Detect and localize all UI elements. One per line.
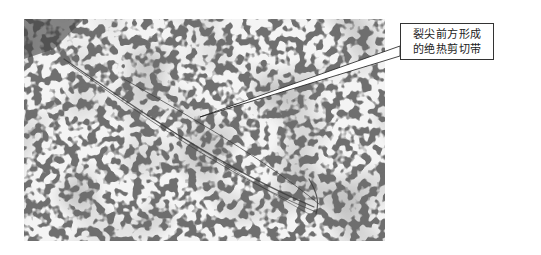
annotation-line-2: 的绝热剪切带	[413, 42, 482, 57]
figure: 裂尖前方形成 的绝热剪切带	[0, 0, 541, 255]
annotation-line-1: 裂尖前方形成	[413, 27, 482, 42]
micrograph-image	[24, 19, 385, 241]
annotation-callout: 裂尖前方形成 的绝热剪切带	[400, 23, 494, 60]
